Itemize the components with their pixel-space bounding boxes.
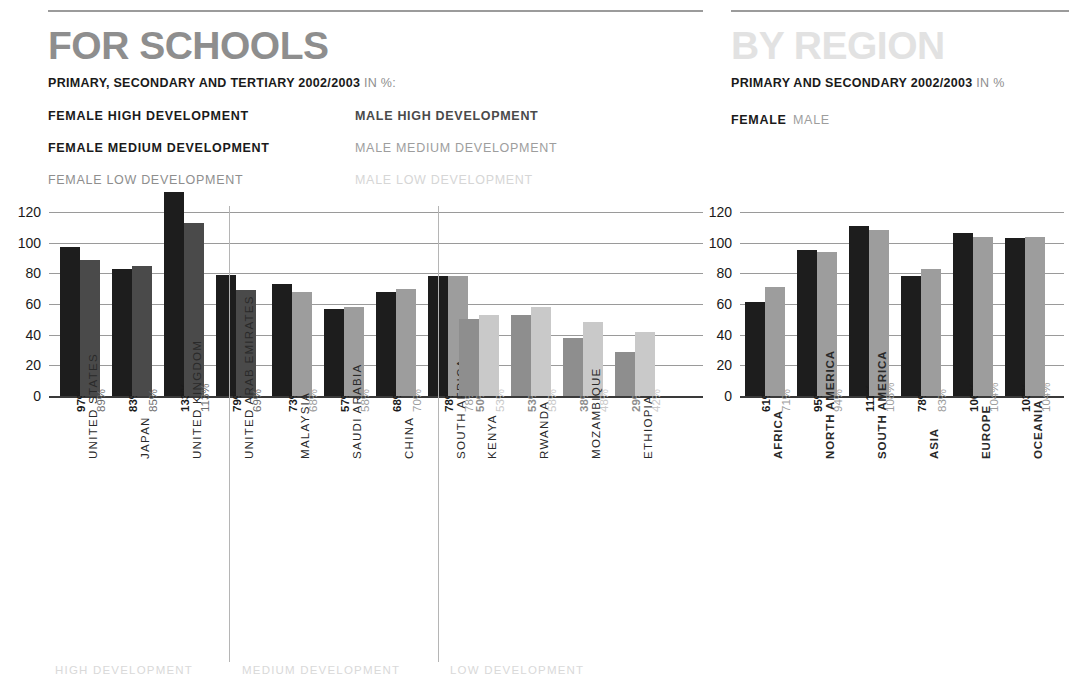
group-label-high-development: HIGH DEVELOPMENT: [55, 664, 193, 676]
bar-female-europe: [953, 233, 973, 396]
header-rule-right: [731, 10, 1069, 12]
group-separator-1: [229, 206, 230, 662]
bar-male-asia: [921, 269, 941, 396]
bar-male-china: [396, 289, 416, 396]
subtitle-bold-right: PRIMARY AND SECONDARY 2002/2003: [731, 76, 973, 90]
bar-female-japan: [112, 269, 132, 396]
y-axis-tick-60: 60: [698, 296, 732, 312]
y-axis-tick-80: 80: [7, 265, 41, 281]
bar-female-north-america: [797, 250, 817, 396]
category-label-south-america: SOUTH AMERICA: [876, 351, 888, 459]
bar-female-rwanda: [511, 315, 531, 396]
y-axis-tick-80: 80: [698, 265, 732, 281]
y-axis-tick-100: 100: [698, 235, 732, 251]
bar-male-malaysia: [292, 292, 312, 396]
bar-male-rwanda: [531, 307, 551, 396]
category-label-north-america: NORTH AMERICA: [824, 350, 836, 459]
y-axis-tick-40: 40: [698, 327, 732, 343]
bar-male-europe: [973, 237, 993, 396]
subtitle-bold-left: PRIMARY, SECONDARY AND TERTIARY 2002/200…: [48, 76, 360, 90]
category-label-japan: JAPAN: [139, 416, 151, 459]
gridline: [49, 243, 703, 244]
y-axis-tick-60: 60: [7, 296, 41, 312]
category-label-kenya: KENYA: [486, 414, 498, 459]
bar-female-mozambique: [563, 338, 583, 396]
category-label-united-states: UNITED STATES: [87, 353, 99, 459]
subtitle-light-right: IN %: [976, 76, 1004, 90]
bar-female-oceania: [1005, 238, 1025, 396]
legend-male-medium-development: MALE MEDIUM DEVELOPMENT: [355, 141, 557, 155]
bar-female-south-america: [849, 226, 869, 396]
legend-region-male: MALE: [793, 113, 830, 127]
legend-female-high-development: FEMALE HIGH DEVELOPMENT: [48, 109, 249, 123]
group-label-medium-development: MEDIUM DEVELOPMENT: [242, 664, 400, 676]
group-label-low-development: LOW DEVELOPMENT: [450, 664, 584, 676]
bar-female-saudi-arabia: [324, 309, 344, 396]
bar-male-japan: [132, 266, 152, 396]
legend-female-medium-development: FEMALE MEDIUM DEVELOPMENT: [48, 141, 270, 155]
category-label-united-arab-emirates: UNITED ARAB EMIRATES: [243, 295, 255, 459]
page-title-by-region: BY REGION: [731, 26, 945, 65]
bar-female-africa: [745, 302, 765, 396]
y-axis-tick-40: 40: [7, 327, 41, 343]
bar-female-china: [376, 292, 396, 396]
category-label-china: CHINA: [403, 417, 415, 459]
bar-male-ethiopia: [635, 332, 655, 396]
category-label-europe: EUROPE: [980, 405, 992, 459]
category-label-united-kingdom: UNITED KINGDOM: [191, 340, 203, 459]
subtitle-light-left: IN %:: [364, 76, 396, 90]
subtitle-for-schools: PRIMARY, SECONDARY AND TERTIARY 2002/200…: [48, 76, 396, 90]
y-axis-tick-0: 0: [7, 388, 41, 404]
bar-female-malaysia: [272, 284, 292, 396]
bar-female-asia: [901, 276, 921, 396]
bar-male-oceania: [1025, 237, 1045, 396]
bar-female-kenya: [459, 319, 479, 396]
y-axis-tick-20: 20: [698, 357, 732, 373]
subtitle-by-region: PRIMARY AND SECONDARY 2002/2003 IN %: [731, 76, 1005, 90]
category-label-mozambique: MOZAMBIQUE: [590, 367, 602, 459]
y-axis-tick-20: 20: [7, 357, 41, 373]
gridline: [740, 212, 1064, 213]
y-axis-tick-100: 100: [7, 235, 41, 251]
group-separator-2: [438, 206, 439, 662]
category-label-ethiopia: ETHIOPIA: [642, 395, 654, 459]
category-label-asia: ASIA: [928, 428, 940, 459]
header-rule-left: [48, 10, 703, 12]
category-label-oceania: OCEANIA: [1032, 400, 1044, 459]
value-label-male-africa: 71%: [780, 389, 792, 412]
legend-male-high-development: MALE HIGH DEVELOPMENT: [355, 109, 538, 123]
y-axis-tick-0: 0: [698, 388, 732, 404]
category-label-saudi-arabia: SAUDI ARABIA: [351, 364, 363, 460]
y-axis-tick-120: 120: [7, 204, 41, 220]
bar-female-united-arab-emirates: [216, 275, 236, 396]
value-label-male-china: 70%: [411, 389, 423, 412]
page-title-for-schools: FOR SCHOOLS: [48, 26, 329, 65]
bar-female-united-kingdom: [164, 192, 184, 396]
category-label-africa: AFRICA: [772, 410, 784, 459]
y-axis-tick-120: 120: [698, 204, 732, 220]
value-label-male-kenya: 53%: [494, 389, 506, 412]
value-label-male-japan: 85%: [147, 389, 159, 412]
legend-male-low-development: MALE LOW DEVELOPMENT: [355, 173, 533, 187]
bar-male-africa: [765, 287, 785, 396]
category-label-rwanda: RWANDA: [538, 401, 550, 459]
value-label-male-asia: 83%: [936, 389, 948, 412]
bar-male-kenya: [479, 315, 499, 396]
bar-female-united-states: [60, 247, 80, 396]
gridline: [49, 212, 703, 213]
legend-female-low-development: FEMALE LOW DEVELOPMENT: [48, 173, 243, 187]
legend-region-female: FEMALE: [731, 113, 787, 127]
category-label-malaysia: MALAYSIA: [299, 392, 311, 459]
